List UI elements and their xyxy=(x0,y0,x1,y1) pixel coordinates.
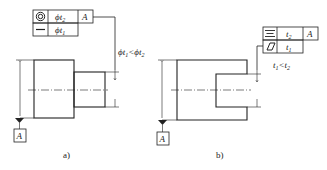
concentricity-icon xyxy=(36,12,44,20)
caption-a: a) xyxy=(63,150,70,160)
tolerance-diagram: ϕt2 A ϕt1 ϕt1<ϕt2 A a) xyxy=(0,0,327,170)
datum-triangle-a xyxy=(15,118,24,123)
figure-b: t2 A t1 t1<t2 A b) xyxy=(157,27,318,160)
tolerance-value-t2-b: t2 xyxy=(286,29,292,40)
figure-a: ϕt2 A ϕt1 ϕt1<ϕt2 A a) xyxy=(14,10,144,160)
condition-label-a: ϕt1<ϕt2 xyxy=(118,47,144,58)
shaft-part-a xyxy=(34,60,105,118)
tolerance-value-t1-a: ϕt1 xyxy=(55,25,65,36)
datum-ref-a: A xyxy=(81,12,88,22)
datum-ref-b: A xyxy=(306,29,313,39)
caption-b: b) xyxy=(216,150,224,160)
datum-label-a: A xyxy=(16,131,23,141)
datum-triangle-b xyxy=(158,120,167,125)
symmetry-icon xyxy=(265,31,275,37)
datum-label-b: A xyxy=(159,134,166,144)
tolerance-value-t1-b: t1 xyxy=(286,42,292,53)
dimension-lines-a xyxy=(16,60,119,118)
flatness-icon xyxy=(267,43,275,50)
tolerance-value-t2-a: ϕt2 xyxy=(55,12,65,23)
condition-label-b: t1<t2 xyxy=(273,60,290,71)
